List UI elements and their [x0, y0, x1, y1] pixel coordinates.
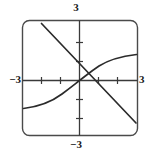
y-axis-max-label: 3	[0, 2, 152, 13]
x-axis-max-label: 3	[139, 74, 152, 85]
graph-figure: 3 −3 −3 3	[0, 0, 152, 155]
y-axis-min-label: −3	[0, 139, 152, 150]
plot-area	[0, 0, 152, 155]
x-axis-min-label: −3	[1, 74, 21, 85]
